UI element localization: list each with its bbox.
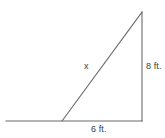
triangle-figure-container: x 8 ft. 6 ft.: [0, 0, 165, 138]
triangle-diagram-svg: [0, 0, 165, 138]
hypotenuse-label: x: [84, 62, 89, 71]
base-leg-label: 6 ft.: [91, 125, 107, 134]
hypotenuse-line: [62, 12, 142, 121]
vertical-leg-label: 8 ft.: [146, 62, 162, 71]
